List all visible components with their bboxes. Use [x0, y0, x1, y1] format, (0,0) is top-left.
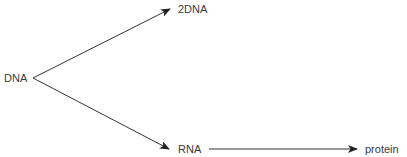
edge-dna-to-2dna [33, 9, 170, 78]
node-rna: RNA [178, 143, 201, 155]
node-dna: DNA [4, 72, 27, 84]
edge-dna-to-rna [33, 78, 169, 149]
node-2dna: 2DNA [178, 3, 207, 15]
diagram-canvas: DNA 2DNA RNA protein [0, 0, 407, 157]
diagram-edges [0, 0, 407, 157]
node-protein: protein [365, 143, 399, 155]
